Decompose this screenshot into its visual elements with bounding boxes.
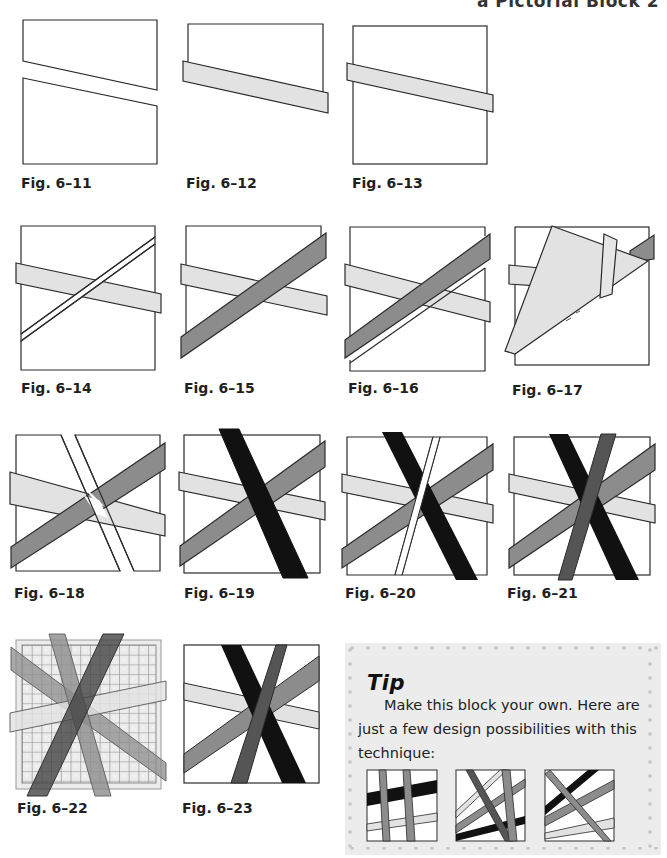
figure-caption: Fig. 6–20	[345, 585, 416, 601]
figure-caption: Fig. 6–22	[17, 800, 88, 816]
tip-design-examples	[345, 643, 661, 855]
design-example-3	[545, 770, 614, 841]
figure-6-23-drawing	[0, 0, 340, 800]
figure-caption: Fig. 6–23	[182, 800, 253, 816]
design-example-1	[367, 770, 437, 841]
design-example-2	[456, 770, 525, 841]
tip-box: Tip Make this block your own. Here are j…	[345, 643, 661, 855]
figure-caption: Fig. 6–21	[507, 585, 578, 601]
